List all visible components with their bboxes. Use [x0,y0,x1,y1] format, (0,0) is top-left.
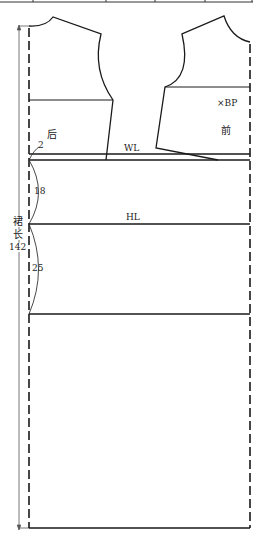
back-bodice [29,17,113,160]
waist-line-label: WL [124,144,139,153]
waist-to-hip-label: 18 [34,187,45,196]
dress-length-label-2: 长 [13,230,23,240]
waist-lines [29,154,250,160]
front-piece-label: 前 [221,126,231,136]
bust-point-label: ×BP [217,99,237,108]
dress-length-value: 142 [9,243,26,252]
waist-drop-label: 2 [38,141,44,150]
measurement-arcs [29,147,39,314]
dress-length-label-1: 裙 [13,217,23,227]
back-piece-label: 后 [47,130,57,140]
front-bodice [156,16,250,160]
hip-line-label: HL [126,213,140,222]
hip-to-knee-label: 25 [32,264,43,273]
table-border-top [0,0,253,2]
dress-length-dimension [17,25,29,530]
